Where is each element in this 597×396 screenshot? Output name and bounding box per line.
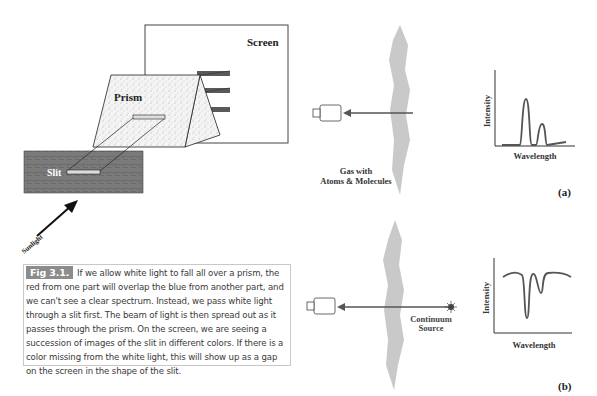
prism-apparatus-diagram: Screen Prism Slit Sunlight bbox=[0, 0, 300, 260]
panel-label-a: (a) bbox=[558, 186, 571, 199]
panel-label-b: (b) bbox=[558, 380, 572, 393]
figure-tag: Fig 3.1. bbox=[26, 266, 73, 279]
slit-label: Slit bbox=[47, 167, 62, 178]
emission-spectrum-plot: Intensity Wavelength bbox=[482, 70, 575, 161]
x-axis-label: Wavelength bbox=[514, 151, 557, 161]
prism-label: Prism bbox=[114, 91, 142, 103]
sunlight-label: Sunlight bbox=[20, 233, 45, 256]
y-axis-label: Intensity bbox=[482, 94, 492, 127]
screen-label: Screen bbox=[247, 36, 279, 48]
gas-cloud bbox=[383, 220, 404, 390]
absorption-spectrum-plot: Intensity Wavelength bbox=[481, 258, 572, 350]
sunlight-arrow bbox=[37, 206, 71, 236]
y-axis-label: Intensity bbox=[481, 281, 491, 314]
panel-a-diagram: Gas with Atoms & Molecules Intensity Wav… bbox=[300, 0, 597, 200]
x-axis-label: Wavelength bbox=[513, 340, 556, 350]
figure-caption: Fig 3.1.If we allow white light to fall … bbox=[23, 264, 291, 366]
caption-text: If we allow white light to fall all over… bbox=[26, 268, 284, 376]
gas-cloud bbox=[389, 25, 410, 195]
gas-label-2: Atoms & Molecules bbox=[320, 176, 392, 186]
gas-label: Gas with bbox=[340, 166, 373, 176]
detector-icon bbox=[320, 105, 341, 121]
source-label-2: Source bbox=[419, 323, 444, 333]
panel-b-diagram: Continuum Source Intensity Wavelength (b… bbox=[300, 200, 597, 396]
detector-icon bbox=[314, 298, 335, 314]
